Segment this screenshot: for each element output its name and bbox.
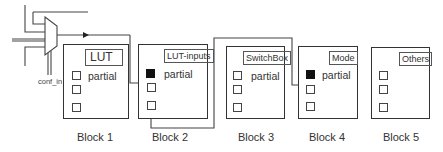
block-4-label: Block 4: [297, 131, 357, 143]
mux-shape: [45, 17, 57, 55]
block-2-square-2: [147, 83, 156, 92]
block-4-square-3: [306, 102, 315, 111]
block-5-tag: Others: [399, 52, 432, 66]
block-3-square-3: [233, 103, 242, 112]
block-1-label: Block 1: [65, 131, 125, 143]
block-5-square-2: [379, 85, 388, 94]
block-2-partial: partial: [164, 68, 193, 80]
block-1-partial: partial: [88, 70, 117, 82]
block-2-square-3: [147, 101, 156, 110]
block-2-tag: LUT-inputs: [164, 49, 214, 63]
block-5-square-3: [379, 103, 388, 112]
block-3-square-2: [233, 85, 242, 94]
input-wire-1: [25, 5, 45, 32]
conf-in-label: conf_in: [38, 77, 62, 86]
block-5-label: Block 5: [371, 131, 431, 143]
block-1-square-2: [72, 85, 81, 94]
block-3-partial: partial: [251, 70, 280, 82]
block-3-tag: SwitchBox: [243, 51, 291, 65]
input-wire-2: [33, 12, 45, 24]
block-5-square-1: [379, 71, 388, 80]
block-2-label: Block 2: [140, 131, 200, 143]
arrow-head-icon: [83, 32, 89, 38]
block-4-tag: Mode: [329, 51, 358, 65]
block-4-partial: partial: [322, 69, 351, 81]
block-3-label: Block 3: [226, 131, 286, 143]
block-3-square-1: [233, 71, 242, 80]
block-2-square-1: [146, 69, 155, 78]
block-4-square-2: [306, 85, 315, 94]
block-1-square-3: [72, 103, 81, 112]
block-4-square-1: [306, 70, 315, 79]
block-1-tag: LUT: [85, 49, 123, 66]
block-1-square-1: [72, 71, 81, 80]
